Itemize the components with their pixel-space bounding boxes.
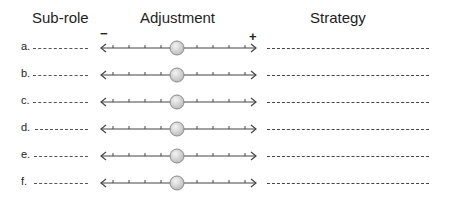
subrole-row: a. bbox=[0, 38, 451, 58]
slider-knob bbox=[170, 149, 184, 163]
slider-knob bbox=[170, 176, 184, 190]
slider-knob bbox=[170, 41, 184, 55]
adjustment-slider[interactable] bbox=[100, 65, 258, 85]
strategy-blank-line[interactable] bbox=[267, 129, 429, 130]
header-subrole: Sub-role bbox=[32, 9, 89, 26]
strategy-blank-line[interactable] bbox=[267, 156, 429, 157]
adjustment-slider[interactable] bbox=[100, 173, 258, 193]
subrole-row: f. bbox=[0, 173, 451, 193]
strategy-blank-line[interactable] bbox=[267, 183, 429, 184]
header-strategy: Strategy bbox=[310, 9, 366, 26]
subrole-blank-line[interactable] bbox=[33, 48, 88, 49]
subrole-blank-line[interactable] bbox=[35, 129, 88, 130]
subrole-row: d. bbox=[0, 119, 451, 139]
strategy-blank-line[interactable] bbox=[267, 102, 429, 103]
row-label: d. bbox=[21, 121, 30, 133]
subrole-blank-line[interactable] bbox=[34, 183, 88, 184]
subrole-blank-line[interactable] bbox=[34, 156, 88, 157]
slider-knob bbox=[170, 122, 184, 136]
subrole-blank-line[interactable] bbox=[33, 102, 88, 103]
adjustment-slider[interactable] bbox=[100, 92, 258, 112]
subrole-row: c. bbox=[0, 92, 451, 112]
row-label: f. bbox=[21, 175, 27, 187]
row-label: e. bbox=[21, 148, 30, 160]
slider-knob bbox=[170, 95, 184, 109]
strategy-blank-line[interactable] bbox=[267, 48, 429, 49]
adjustment-slider[interactable] bbox=[100, 146, 258, 166]
header-adjustment: Adjustment bbox=[140, 9, 215, 26]
subrole-row: b. bbox=[0, 65, 451, 85]
adjustment-slider[interactable] bbox=[100, 119, 258, 139]
row-label: c. bbox=[21, 94, 30, 106]
strategy-blank-line[interactable] bbox=[267, 75, 429, 76]
subrole-blank-line[interactable] bbox=[33, 75, 88, 76]
adjustment-slider[interactable] bbox=[100, 38, 258, 58]
row-label: b. bbox=[21, 67, 30, 79]
slider-knob bbox=[170, 68, 184, 82]
row-label: a. bbox=[21, 40, 30, 52]
subrole-row: e. bbox=[0, 146, 451, 166]
